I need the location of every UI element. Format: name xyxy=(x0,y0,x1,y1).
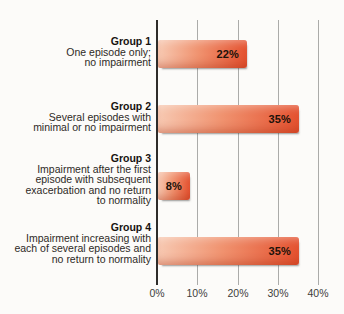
bar-value-label: 35% xyxy=(268,113,291,125)
bar-chart: 22% 35% 8% 35% Group 1 One episode only;… xyxy=(0,0,344,314)
group-name: Group 1 xyxy=(0,36,151,47)
x-tick-label-30pct: 30% xyxy=(261,287,295,299)
group-desc-line: each of several episodes and xyxy=(0,243,151,254)
bar-group-4: 35% xyxy=(158,237,299,265)
group-desc-line: minimal or no impairment xyxy=(0,122,151,133)
bar-value-label: 22% xyxy=(216,48,239,60)
group-desc-line: episode with subsequent xyxy=(0,174,151,185)
group-desc-line: no return to normality xyxy=(0,254,151,265)
gridline-40pct xyxy=(318,20,319,285)
x-tick-label-10pct: 10% xyxy=(180,287,214,299)
x-tick-label-40pct: 40% xyxy=(301,287,335,299)
x-tick-label-20pct: 20% xyxy=(221,287,255,299)
bar-group-2: 35% xyxy=(158,105,299,133)
group-name: Group 4 xyxy=(0,222,151,233)
bar-value-label: 8% xyxy=(166,180,182,192)
category-label-group-3: Group 3 Impairment after the first episo… xyxy=(0,153,151,206)
group-desc-line: to normality xyxy=(0,195,151,206)
bar-group-1: 22% xyxy=(158,40,247,68)
group-desc-line: no impairment xyxy=(0,57,151,68)
category-label-group-1: Group 1 One episode only; no impairment xyxy=(0,36,151,68)
x-tick-label-0pct: 0% xyxy=(140,287,174,299)
group-name: Group 3 xyxy=(0,153,151,164)
category-label-group-2: Group 2 Several episodes with minimal or… xyxy=(0,101,151,133)
group-name: Group 2 xyxy=(0,101,151,112)
bar-value-label: 35% xyxy=(268,245,291,257)
category-label-group-4: Group 4 Impairment increasing with each … xyxy=(0,222,151,264)
bar-group-3: 8% xyxy=(158,172,190,200)
